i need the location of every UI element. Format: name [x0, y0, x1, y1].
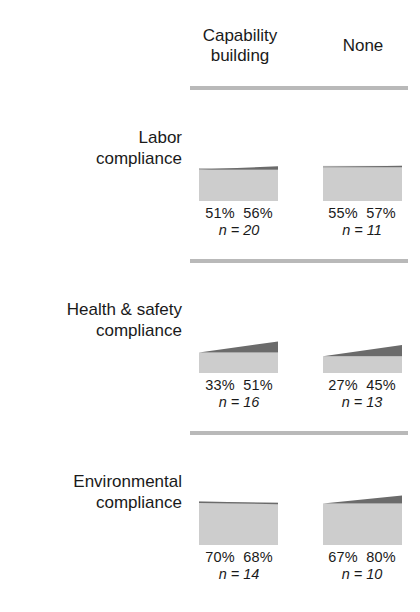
start-value: 55%: [328, 205, 358, 221]
slope-panel-environmental-capability-building: [199, 483, 278, 547]
sample-size-health-safety-none: n = 13: [319, 394, 405, 411]
values-labor-none: 55% 57%: [319, 205, 405, 222]
row-rule-health-safety: [190, 431, 408, 435]
slope-panel-environmental-none: [323, 483, 402, 547]
values-labor-capability-building: 51% 56%: [196, 205, 282, 222]
sample-size-environmental-none: n = 10: [319, 566, 405, 583]
end-value: 68%: [243, 549, 273, 565]
sample-size-health-safety-capability-building: n = 16: [196, 394, 282, 411]
start-value: 33%: [205, 377, 235, 393]
slope-panel-health-safety-none: [323, 311, 402, 375]
end-value: 51%: [243, 377, 273, 393]
slope-chart-figure: Capability building None Labor complianc…: [0, 0, 420, 612]
slope-panel-labor-capability-building: [199, 139, 278, 203]
column-header-capability-building: Capability building: [190, 26, 290, 66]
values-health-safety-capability-building: 33% 51%: [196, 377, 282, 394]
start-value: 27%: [328, 377, 358, 393]
row-label-environmental-compliance: Environmental compliance: [4, 471, 182, 513]
end-value: 45%: [366, 377, 396, 393]
sample-size-environmental-capability-building: n = 14: [196, 566, 282, 583]
column-header-none: None: [320, 36, 406, 56]
values-environmental-none: 67% 80%: [319, 549, 405, 566]
end-value: 57%: [366, 205, 396, 221]
caption-environmental-capability-building: 70% 68% n = 14: [196, 549, 282, 583]
caption-environmental-none: 67% 80% n = 10: [319, 549, 405, 583]
values-health-safety-none: 27% 45%: [319, 377, 405, 394]
caption-labor-capability-building: 51% 56% n = 20: [196, 205, 282, 239]
start-value: 70%: [205, 549, 235, 565]
row-rule-labor: [190, 259, 408, 263]
slope-panel-labor-none: [323, 139, 402, 203]
sample-size-labor-none: n = 11: [319, 222, 405, 239]
start-value: 51%: [205, 205, 235, 221]
sample-size-labor-capability-building: n = 20: [196, 222, 282, 239]
slope-panel-health-safety-capability-building: [199, 311, 278, 375]
caption-health-safety-capability-building: 33% 51% n = 16: [196, 377, 282, 411]
start-value: 67%: [328, 549, 358, 565]
caption-labor-none: 55% 57% n = 11: [319, 205, 405, 239]
row-label-labor-compliance: Labor compliance: [4, 127, 182, 169]
row-label-health-safety-compliance: Health & safety compliance: [4, 299, 182, 341]
values-environmental-capability-building: 70% 68%: [196, 549, 282, 566]
caption-health-safety-none: 27% 45% n = 13: [319, 377, 405, 411]
end-value: 56%: [243, 205, 273, 221]
header-rule: [190, 86, 408, 90]
end-value: 80%: [366, 549, 396, 565]
